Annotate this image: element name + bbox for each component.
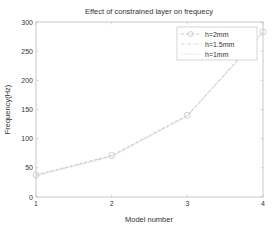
- y-tick-label: 0: [29, 194, 33, 201]
- chart-canvas: Effect of constrained layer on frequecy …: [0, 0, 278, 226]
- x-tick-label: 1: [34, 200, 38, 207]
- legend-label: h=2mm: [205, 31, 229, 38]
- y-tick-label: 300: [21, 19, 33, 26]
- y-tick-label: 200: [21, 77, 33, 84]
- legend-label: h=1.5mm: [205, 41, 235, 48]
- x-tick-label: 4: [261, 200, 265, 207]
- x-axis-label: Model number: [125, 215, 173, 224]
- chart-title: Effect of constrained layer on frequecy: [85, 7, 213, 16]
- y-tick-label: 150: [21, 106, 33, 113]
- frequency-line-chart: Effect of constrained layer on frequecy …: [0, 0, 278, 226]
- x-tick-label: 3: [185, 200, 189, 207]
- y-tick-label: 100: [21, 135, 33, 142]
- chart-legend: h=2mmh=1.5mmh=1mm: [177, 27, 257, 60]
- y-axis-label: Frequency(Hz): [3, 84, 12, 134]
- legend-label: h=1mm: [205, 51, 229, 58]
- y-tick-label: 50: [25, 164, 33, 171]
- y-tick-label: 250: [21, 48, 33, 55]
- x-tick-label: 2: [110, 200, 114, 207]
